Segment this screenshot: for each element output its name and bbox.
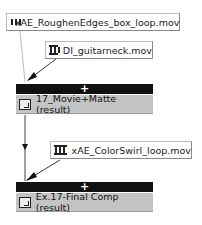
film-icon: [49, 45, 58, 55]
composition-node-movie-matte[interactable]: 17_Movie+Matte (result): [16, 95, 153, 114]
composition-label: 17_Movie+Matte (result): [36, 93, 153, 115]
footage-label: DI_guitarneck.mov: [63, 45, 152, 56]
composition-icon: [19, 197, 31, 208]
composition-node-final-comp[interactable]: Ex.17-Final Comp (result): [16, 193, 153, 212]
footage-label: xAE_ColorSwirl_loop.mov: [72, 145, 191, 156]
footage-node-guitarneck[interactable]: DI_guitarneck.mov: [45, 41, 153, 59]
composition-label: Ex.17-Final Comp (result): [36, 191, 153, 213]
footage-node-color-swirl[interactable]: xAE_ColorSwirl_loop.mov: [50, 141, 192, 159]
film-icon: [54, 145, 67, 155]
footage-node-roughen-edges[interactable]: xAE_RoughenEdges_box_loop.mov: [6, 13, 180, 31]
footage-label: xAE_RoughenEdges_box_loop.mov: [15, 17, 179, 28]
composition-icon: [19, 99, 31, 110]
